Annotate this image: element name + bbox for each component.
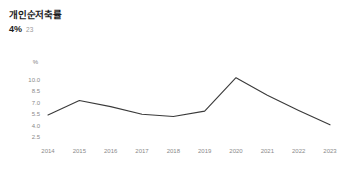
page-title: 개인순저축률 — [9, 9, 62, 21]
metric-period: 23 — [26, 24, 33, 35]
x-axis-tick-label: 2014 — [41, 148, 55, 154]
x-axis-tick-label: 2020 — [229, 148, 243, 154]
line-chart: % 10.08.57.05.54.02.5 201420152016201720… — [0, 52, 356, 162]
x-axis-tick-label: 2023 — [323, 148, 337, 154]
y-axis-unit-label: % — [33, 59, 39, 65]
y-axis-tick-label: 4.0 — [32, 123, 41, 129]
x-axis-tick-label: 2019 — [198, 148, 212, 154]
chart-svg: % 10.08.57.05.54.02.5 201420152016201720… — [0, 52, 356, 162]
y-axis-tick-label: 7.0 — [32, 100, 41, 106]
x-axis-tick-label: 2016 — [104, 148, 118, 154]
x-axis-tick-label: 2018 — [167, 148, 181, 154]
x-axis-tick-label: 2021 — [261, 148, 275, 154]
y-axis-ticks: 10.08.57.05.54.02.5 — [28, 77, 40, 140]
y-axis-tick-label: 8.5 — [32, 88, 41, 94]
metric-summary: 4% 23 — [9, 24, 62, 35]
x-axis-tick-label: 2015 — [73, 148, 87, 154]
x-axis-ticks: 2014201520162017201820192020202120222023 — [41, 148, 337, 154]
y-axis-tick-label: 2.5 — [32, 134, 41, 140]
y-axis-tick-label: 10.0 — [28, 77, 40, 83]
metric-value: 4% — [9, 24, 22, 35]
series-line-path — [48, 78, 330, 125]
x-axis-tick-label: 2017 — [135, 148, 149, 154]
x-axis-tick-label: 2022 — [292, 148, 306, 154]
chart-card: 개인순저축률 4% 23 % 10.08.57.05.54.02.5 20142… — [0, 0, 356, 171]
chart-header: 개인순저축률 4% 23 — [9, 9, 62, 35]
y-axis-tick-label: 5.5 — [32, 111, 41, 117]
